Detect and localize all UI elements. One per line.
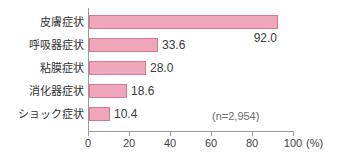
x-axis-line bbox=[88, 131, 294, 132]
bar-1 bbox=[89, 38, 158, 52]
x-tick-label-2: 40 bbox=[164, 137, 176, 149]
plot-area: 皮膚症状 呼吸器症状 粘膜症状 消化器症状 ショック症状 92.0 33.6 2… bbox=[0, 0, 343, 160]
value-label-0: 92.0 bbox=[254, 31, 277, 45]
value-label-4: 10.4 bbox=[114, 107, 137, 121]
category-label-4: ショック症状 bbox=[18, 107, 84, 121]
category-label-0: 皮膚症状 bbox=[40, 15, 84, 29]
x-tick-label-0: 0 bbox=[85, 137, 91, 149]
value-label-3: 18.6 bbox=[131, 84, 154, 98]
x-tick-0 bbox=[88, 132, 89, 136]
x-tick-5 bbox=[293, 132, 294, 136]
x-tick-2 bbox=[170, 132, 171, 136]
x-axis-unit-label: (%) bbox=[306, 137, 323, 149]
bar-4 bbox=[89, 107, 110, 121]
x-tick-label-5: 100 bbox=[284, 137, 302, 149]
bar-0 bbox=[89, 15, 278, 29]
x-tick-label-4: 80 bbox=[246, 137, 258, 149]
category-label-3: 消化器症状 bbox=[29, 84, 84, 98]
category-label-2: 粘膜症状 bbox=[40, 61, 84, 75]
value-label-2: 28.0 bbox=[150, 61, 173, 75]
x-tick-label-3: 60 bbox=[205, 137, 217, 149]
category-label-1: 呼吸器症状 bbox=[29, 38, 84, 52]
x-tick-1 bbox=[129, 132, 130, 136]
bar-2 bbox=[89, 61, 146, 75]
x-tick-label-1: 20 bbox=[123, 137, 135, 149]
bar-chart: 皮膚症状 呼吸器症状 粘膜症状 消化器症状 ショック症状 92.0 33.6 2… bbox=[0, 0, 343, 160]
sample-size-note: (n=2,954) bbox=[212, 110, 259, 122]
value-label-1: 33.6 bbox=[162, 38, 185, 52]
bar-3 bbox=[89, 84, 127, 98]
x-tick-4 bbox=[252, 132, 253, 136]
x-tick-3 bbox=[211, 132, 212, 136]
